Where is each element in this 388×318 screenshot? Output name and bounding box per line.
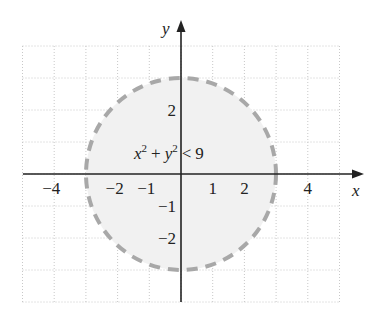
x-axis-label: x — [351, 181, 360, 200]
y-tick-label: −1 — [158, 197, 176, 216]
y-tick-label: −2 — [158, 229, 176, 248]
x-tick-label: −4 — [42, 179, 61, 198]
y-axis-arrow-icon — [177, 20, 186, 32]
inequality-graph: x y −4−2−1124 2−1−2 x2+y2<9 — [0, 0, 388, 318]
y-tick-label: 2 — [168, 101, 177, 120]
x-axis-arrow-icon — [352, 170, 364, 179]
x-tick-label: 2 — [240, 179, 249, 198]
x-tick-label: 4 — [304, 179, 313, 198]
x-tick-label: 1 — [208, 179, 217, 198]
x-tick-label: −2 — [106, 179, 124, 198]
x-tick-label: −1 — [137, 179, 155, 198]
y-axis-label: y — [160, 19, 170, 38]
